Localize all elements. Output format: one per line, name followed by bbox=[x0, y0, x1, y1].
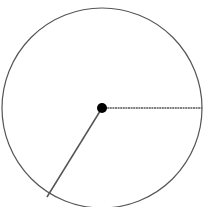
center-point bbox=[97, 103, 107, 113]
circle-diagram bbox=[0, 0, 204, 207]
